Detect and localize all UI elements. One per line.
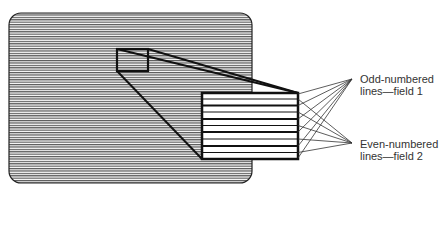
even-label-line1: Even-numbered bbox=[360, 138, 438, 150]
odd-field-label: Odd-numbered lines—field 1 bbox=[360, 73, 434, 97]
odd-label-line1: Odd-numbered bbox=[360, 73, 434, 85]
odd-label-line2: lines—field 1 bbox=[360, 85, 434, 97]
even-field-label: Even-numbered lines—field 2 bbox=[360, 138, 438, 162]
enlarged-lines-box bbox=[202, 93, 298, 159]
even-label-line2: lines—field 2 bbox=[360, 150, 438, 162]
odd-field-connectors bbox=[298, 79, 352, 158]
even-field-connectors bbox=[298, 99, 352, 153]
